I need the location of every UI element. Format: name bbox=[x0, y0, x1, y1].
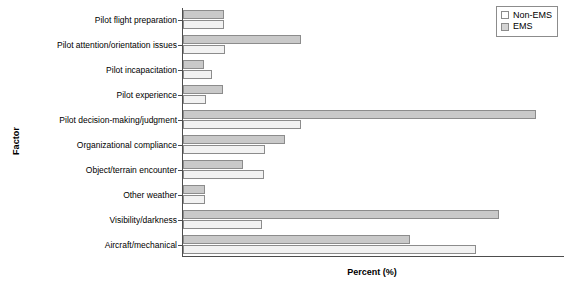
y-axis-tick bbox=[178, 70, 182, 71]
chart-category-row: Pilot decision-making/judgment bbox=[182, 108, 562, 133]
y-axis-tick bbox=[178, 245, 182, 246]
y-axis-tick-label: Organizational compliance bbox=[77, 140, 177, 150]
chart-category-row: Visibility/darkness bbox=[182, 207, 562, 232]
chart-category-row: Pilot experience bbox=[182, 83, 562, 108]
y-axis-tick bbox=[178, 145, 182, 146]
chart-legend: Non-EMSEMS bbox=[496, 6, 558, 37]
chart-category-row: Other weather bbox=[182, 182, 562, 207]
bar-non-ems bbox=[183, 20, 224, 29]
bar-ems bbox=[183, 60, 204, 69]
bar-ems bbox=[183, 85, 223, 94]
y-axis-title: Factor bbox=[11, 127, 21, 155]
y-axis-tick bbox=[178, 120, 182, 121]
bar-ems bbox=[183, 35, 301, 44]
bar-ems bbox=[183, 235, 410, 244]
chart-category-row: Organizational compliance bbox=[182, 133, 562, 158]
legend-item-ems: EMS bbox=[501, 21, 552, 32]
bar-chart: Factor Pilot flight preparationPilot att… bbox=[0, 0, 566, 282]
legend-swatch-icon bbox=[501, 11, 509, 19]
y-axis-tick-label: Pilot attention/orientation issues bbox=[57, 40, 177, 50]
bar-ems bbox=[183, 210, 499, 219]
bar-non-ems bbox=[183, 145, 265, 154]
bar-non-ems bbox=[183, 45, 225, 54]
y-axis-tick-label: Pilot decision-making/judgment bbox=[59, 115, 177, 125]
y-axis-tick-label: Aircraft/mechanical bbox=[105, 240, 177, 250]
bar-non-ems bbox=[183, 70, 212, 79]
bar-non-ems bbox=[183, 95, 206, 104]
chart-category-row: Object/terrain encounter bbox=[182, 157, 562, 182]
x-axis-title: Percent (%) bbox=[182, 267, 562, 277]
bar-ems bbox=[183, 135, 285, 144]
bar-ems bbox=[183, 160, 243, 169]
y-axis-tick bbox=[178, 20, 182, 21]
legend-item-nonems: Non-EMS bbox=[501, 10, 552, 21]
bar-non-ems bbox=[183, 245, 476, 254]
chart-category-row: Pilot attention/orientation issues bbox=[182, 33, 562, 58]
bar-ems bbox=[183, 110, 536, 119]
y-axis-tick-label: Other weather bbox=[123, 190, 177, 200]
bar-ems bbox=[183, 10, 224, 19]
y-axis-tick-label: Object/terrain encounter bbox=[86, 165, 177, 175]
y-axis-tick bbox=[178, 95, 182, 96]
y-axis-tick-label: Pilot flight preparation bbox=[95, 15, 177, 25]
y-axis-tick bbox=[178, 170, 182, 171]
legend-swatch-icon bbox=[501, 23, 509, 31]
chart-category-row: Pilot incapacitation bbox=[182, 58, 562, 83]
y-axis-tick-label: Visibility/darkness bbox=[110, 215, 177, 225]
y-axis-tick-label: Pilot experience bbox=[117, 90, 177, 100]
bar-non-ems bbox=[183, 220, 262, 229]
y-axis-tick-label: Pilot incapacitation bbox=[106, 65, 177, 75]
legend-label: Non-EMS bbox=[513, 10, 552, 21]
bar-non-ems bbox=[183, 195, 205, 204]
legend-label: EMS bbox=[513, 21, 533, 32]
bar-ems bbox=[183, 185, 205, 194]
y-axis-tick bbox=[178, 195, 182, 196]
plot-area: Pilot flight preparationPilot attention/… bbox=[182, 8, 562, 257]
bar-non-ems bbox=[183, 120, 301, 129]
chart-category-row: Aircraft/mechanical bbox=[182, 232, 562, 257]
y-axis-tick bbox=[178, 220, 182, 221]
y-axis-tick bbox=[178, 45, 182, 46]
bar-non-ems bbox=[183, 170, 264, 179]
